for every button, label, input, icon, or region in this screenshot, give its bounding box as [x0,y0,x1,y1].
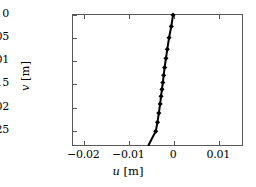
y-axis-symbol: v [18,85,32,92]
y-tick-label-0: 0 [2,8,9,19]
x-axis-title: u [m] [0,165,256,177]
data-marker-1 [169,24,174,29]
chart-figure: 0−0.005−0.01−0.015−0.02−0.025 −0.02−0.01… [0,0,256,187]
plot-area [72,14,243,146]
data-marker-8 [159,87,164,92]
y-tick-label-4: −0.02 [0,101,9,112]
data-line [149,15,173,145]
x-tick-label-3: 0.01 [188,149,248,160]
y-axis-unit: [m] [18,61,32,81]
data-marker-7 [160,80,165,85]
y-tick-label-3: −0.015 [0,77,9,88]
x-axis-unit: [m] [124,164,144,178]
y-tick-label-5: −0.025 [0,124,9,135]
x-axis-symbol: u [113,164,120,178]
data-marker-12 [155,120,160,125]
y-tick-label-1: −0.005 [0,31,9,42]
data-series-svg [73,15,242,145]
data-marker-2 [166,35,171,40]
data-marker-4 [163,56,168,61]
data-marker-3 [165,47,170,52]
data-marker-5 [162,65,167,70]
data-marker-11 [156,111,161,116]
data-marker-6 [161,73,166,78]
y-axis-title: v [m] [19,46,31,106]
y-tick-label-2: −0.01 [0,54,9,65]
data-marker-10 [158,101,163,106]
data-marker-9 [158,94,163,99]
data-marker-0 [170,12,175,17]
